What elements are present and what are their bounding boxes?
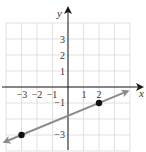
x-axis-label: x xyxy=(138,87,144,99)
coordinate-plane: x y −3 −2 −1 1 2 3 2 1 −1 −3 xyxy=(0,0,146,152)
x-tick-label: 1 xyxy=(82,89,87,100)
y-axis-label: y xyxy=(56,7,62,19)
data-point xyxy=(18,132,24,138)
y-tick-label: 3 xyxy=(60,34,65,45)
data-point xyxy=(96,100,102,106)
y-tick-label: 1 xyxy=(60,66,65,77)
y-tick-label: −3 xyxy=(54,129,65,140)
y-tick-label: −1 xyxy=(54,97,65,108)
x-tick-label: −3 xyxy=(17,89,28,100)
x-tick-label: −2 xyxy=(32,89,43,100)
y-tick-label: 2 xyxy=(60,50,65,61)
x-tick-label: 2 xyxy=(97,89,102,100)
